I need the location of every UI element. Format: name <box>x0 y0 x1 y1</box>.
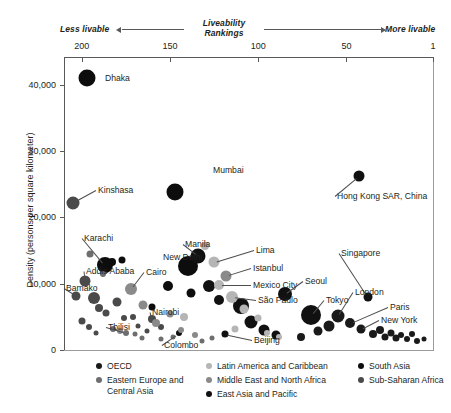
city-label-addis-ababa: Addis Ababa <box>86 266 134 276</box>
bubble <box>159 337 164 342</box>
bubble <box>398 332 404 338</box>
x-tick-label: 200 <box>74 41 89 51</box>
legend-label: OECD <box>107 361 132 372</box>
bubble <box>376 326 384 334</box>
legend-swatch-icon <box>206 363 212 369</box>
legend-swatch-icon <box>206 391 212 397</box>
bubble <box>86 324 92 330</box>
bubble-london <box>331 310 344 323</box>
bubble-lima <box>209 257 220 268</box>
bubble <box>88 292 100 304</box>
legend: OECDEastern Europe and Central AsiaLatin… <box>96 361 446 407</box>
bubble-paris <box>345 318 355 328</box>
x-tick <box>82 58 83 62</box>
city-label-paris: Paris <box>390 302 410 312</box>
bubble <box>214 295 224 305</box>
y-tick <box>60 85 64 86</box>
city-label-s-o-paulo: São Paulo <box>258 295 298 305</box>
leader-line <box>222 285 251 286</box>
city-label-karachi: Karachi <box>84 233 113 243</box>
legend-item-oecd[interactable]: OECD <box>96 361 132 372</box>
bubble-mumbai <box>167 184 184 201</box>
bubble <box>422 337 427 342</box>
bubble <box>255 315 262 322</box>
left-arrowhead-icon <box>116 27 121 33</box>
x-tick-label: 150 <box>162 41 177 51</box>
city-label-beijing: Beijing <box>254 335 280 345</box>
city-label-dhaka: Dhaka <box>105 73 130 83</box>
x-tick-label: 1 <box>430 41 435 51</box>
x-axis-line <box>64 57 434 58</box>
header-band: Less livable Liveability Rankings More l… <box>0 10 451 40</box>
x-tick-label: 50 <box>341 41 351 51</box>
bubble-dhaka <box>78 69 95 86</box>
bubble <box>103 309 110 316</box>
legend-label: Latin America and Caribbean <box>217 361 328 372</box>
bubble-tokyo <box>301 305 321 325</box>
bubble <box>180 313 188 321</box>
chart-title-line1: Liveability <box>189 18 259 28</box>
bubble <box>232 325 239 332</box>
bubble <box>178 327 184 333</box>
bubble <box>139 300 148 309</box>
bubble <box>199 338 204 343</box>
legend-label: Eastern Europe and Central Asia <box>107 375 201 397</box>
legend-item-east-asia-and-pacific[interactable]: East Asia and Pacific <box>206 389 356 400</box>
leader-line <box>217 250 254 262</box>
legend-swatch-icon <box>358 363 364 369</box>
y-tick <box>60 217 64 218</box>
bubble <box>409 331 415 337</box>
legend-swatch-icon <box>96 377 102 383</box>
bubble <box>93 330 98 335</box>
leader-line <box>227 335 252 341</box>
bubble <box>139 336 144 341</box>
bubble-istanbul <box>221 270 232 281</box>
bubble <box>387 329 394 336</box>
left-arrow-line <box>122 29 184 30</box>
legend-item-south-asia[interactable]: South Asia <box>358 361 451 372</box>
legend-item-latin-america-and-caribbean[interactable]: Latin America and Caribbean <box>206 361 356 372</box>
city-label-colombo: Colombo <box>164 340 198 350</box>
bubble <box>112 298 121 307</box>
bubble <box>414 338 420 344</box>
legend-label: Middle East and North Africa <box>217 375 326 386</box>
x-tick <box>170 58 171 62</box>
bubble <box>95 304 103 312</box>
bubble <box>210 336 215 341</box>
city-label-lima: Lima <box>256 245 275 255</box>
leader-line <box>133 272 145 287</box>
bubble <box>163 281 173 291</box>
bubble <box>314 327 323 336</box>
bubble <box>152 319 160 327</box>
less-livable-label: Less livable <box>60 24 109 34</box>
bubble <box>78 317 85 324</box>
legend-swatch-icon <box>96 363 102 369</box>
city-label-mumbai: Mumbai <box>213 165 244 175</box>
right-arrow-line <box>264 29 382 30</box>
y-axis-title: Density (persons per square kilometer) <box>25 60 35 360</box>
x-tick <box>433 58 434 62</box>
legend-item-eastern-europe-and-central-asia[interactable]: Eastern Europe and Central Asia <box>96 375 201 397</box>
x-tick <box>346 58 347 62</box>
plot-right-border <box>433 58 434 350</box>
bubble <box>119 256 126 263</box>
chart-title: Liveability Rankings <box>189 18 259 38</box>
plot-bottom-border <box>64 350 434 351</box>
city-label-nairobi: Nairobi <box>152 307 179 317</box>
city-label-new-york: New York <box>381 315 417 325</box>
bubble <box>192 332 198 338</box>
y-tick <box>60 151 64 152</box>
city-label-cairo: Cairo <box>146 267 167 277</box>
bubble <box>130 314 136 320</box>
bubble <box>297 333 305 341</box>
leader-line <box>229 268 251 276</box>
city-label-istanbul: Istanbul <box>253 263 283 273</box>
y-tick <box>60 350 64 351</box>
legend-item-sub-saharan-africa[interactable]: Sub-Saharan Africa <box>358 375 451 386</box>
chart-title-line2: Rankings <box>189 28 259 38</box>
x-tick <box>258 58 259 62</box>
legend-swatch-icon <box>206 377 212 383</box>
city-label-kinshasa: Kinshasa <box>98 185 133 195</box>
legend-item-middle-east-and-north-africa[interactable]: Middle East and North Africa <box>206 375 356 386</box>
y-axis-line <box>64 58 65 350</box>
